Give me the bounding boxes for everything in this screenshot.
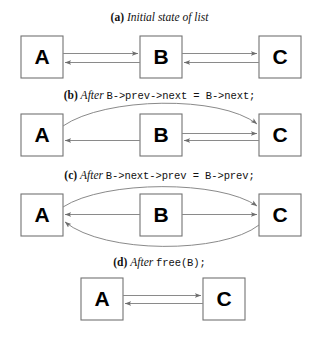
node-label-b3: B — [140, 204, 182, 225]
caption-c-after: After — [80, 169, 103, 181]
caption-d-after: After — [130, 256, 153, 268]
caption-b-label: (b) — [64, 89, 78, 101]
figure-canvas: (a) Initial state of list A B C (b) Afte… — [0, 0, 319, 337]
caption-d: (d) After free(B); — [0, 256, 319, 270]
node-label-b2: B — [140, 124, 182, 145]
node-label-a3: A — [21, 204, 63, 225]
caption-a-text: Initial state of list — [127, 11, 208, 23]
caption-c-code: B->next->prev = B->prev; — [106, 170, 255, 182]
node-label-c1: C — [259, 46, 301, 67]
caption-b-after: After — [81, 89, 104, 101]
node-label-a1: A — [21, 46, 63, 67]
caption-c-label: (c) — [64, 169, 77, 181]
caption-c: (c) After B->next->prev = B->prev; — [0, 169, 319, 183]
node-label-a4: A — [81, 288, 123, 309]
caption-b-code: B->prev->next = B->next; — [106, 90, 255, 102]
caption-b: (b) After B->prev->next = B->next; — [0, 89, 319, 103]
node-label-c2: C — [259, 124, 301, 145]
caption-d-label: (d) — [113, 256, 127, 268]
node-label-c4: C — [203, 288, 245, 309]
caption-a-label: (a) — [111, 11, 124, 23]
node-label-a2: A — [21, 124, 63, 145]
node-label-c3: C — [259, 204, 301, 225]
caption-a: (a) Initial state of list — [0, 11, 319, 24]
caption-d-code: free(B); — [156, 257, 206, 269]
node-label-b1: B — [140, 46, 182, 67]
